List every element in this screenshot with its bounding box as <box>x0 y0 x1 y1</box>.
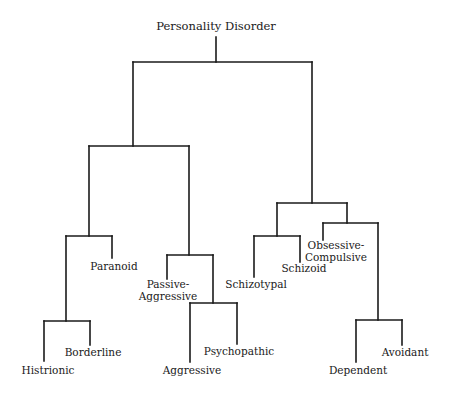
leaf-label-line: Compulsive <box>305 251 367 263</box>
leaf-label-obsessive-compulsive: Obsessive-Compulsive <box>305 239 367 263</box>
leaf-label-line: Obsessive- <box>308 239 365 251</box>
root-label: Personality Disorder <box>156 19 276 33</box>
leaf-label-psychopathic: Psychopathic <box>204 345 274 357</box>
background <box>0 0 449 402</box>
leaf-label-line: Paranoid <box>90 260 138 272</box>
leaf-label-line: Psychopathic <box>204 345 274 357</box>
leaf-label-paranoid: Paranoid <box>90 260 138 272</box>
leaf-label-passive-aggressive: Passive-Aggressive <box>138 278 198 302</box>
leaf-label-aggressive: Aggressive <box>162 364 222 376</box>
leaf-label-schizoid: Schizoid <box>281 262 326 274</box>
leaf-label-avoidant: Avoidant <box>381 346 430 358</box>
leaf-label-line: Avoidant <box>381 346 430 358</box>
leaf-label-line: Passive- <box>147 278 190 290</box>
leaf-label-line: Histrionic <box>22 364 75 376</box>
leaf-label-line: Schizoid <box>281 262 326 274</box>
leaf-label-line: Aggressive <box>162 364 222 376</box>
leaf-label-dependent: Dependent <box>329 364 388 376</box>
leaf-label-line: Aggressive <box>138 290 198 302</box>
leaf-label-line: Borderline <box>65 346 122 358</box>
leaf-label-line: Dependent <box>329 364 388 376</box>
leaf-label-borderline: Borderline <box>65 346 122 358</box>
leaf-label-line: Schizotypal <box>225 278 287 290</box>
leaf-label-histrionic: Histrionic <box>22 364 75 376</box>
personality-disorder-dendrogram: Personality Disorder ParanoidHistrionicB… <box>0 0 449 402</box>
leaf-label-schizotypal: Schizotypal <box>225 278 287 290</box>
